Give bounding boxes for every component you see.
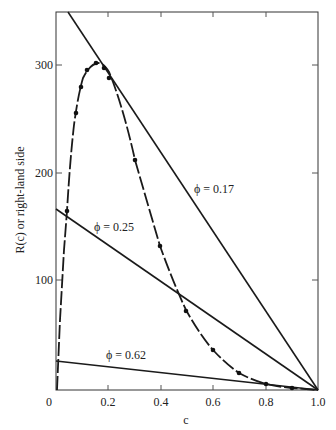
phi-017-label: ϕ = 0.17: [194, 182, 234, 196]
x-axis-title: c: [183, 413, 188, 427]
y-tick-label: 100: [35, 273, 53, 287]
chart: 0 0.2 0.4 0.6 0.8 1.0 300 200 100 c R(c)…: [0, 0, 336, 430]
x-tick-label: 0.4: [154, 395, 169, 409]
phi-025-label: ϕ = 0.25: [94, 220, 134, 234]
x-tick-label: 0.6: [206, 395, 221, 409]
y-ticks: [56, 65, 318, 280]
x-tick-label: 0: [46, 395, 52, 409]
y-tick-label: 200: [35, 166, 53, 180]
y-axis-title: R(c) or right-land side: [13, 147, 27, 254]
y-tick-label: 300: [35, 58, 53, 72]
plot-frame: [56, 12, 318, 390]
x-tick-label: 0.2: [101, 395, 116, 409]
x-ticks: [108, 12, 266, 390]
phi-062-label: ϕ = 0.62: [106, 348, 146, 362]
x-tick-label: 0.8: [259, 395, 274, 409]
phi-025-line: [56, 209, 318, 390]
x-tick-label: 1.0: [311, 395, 326, 409]
